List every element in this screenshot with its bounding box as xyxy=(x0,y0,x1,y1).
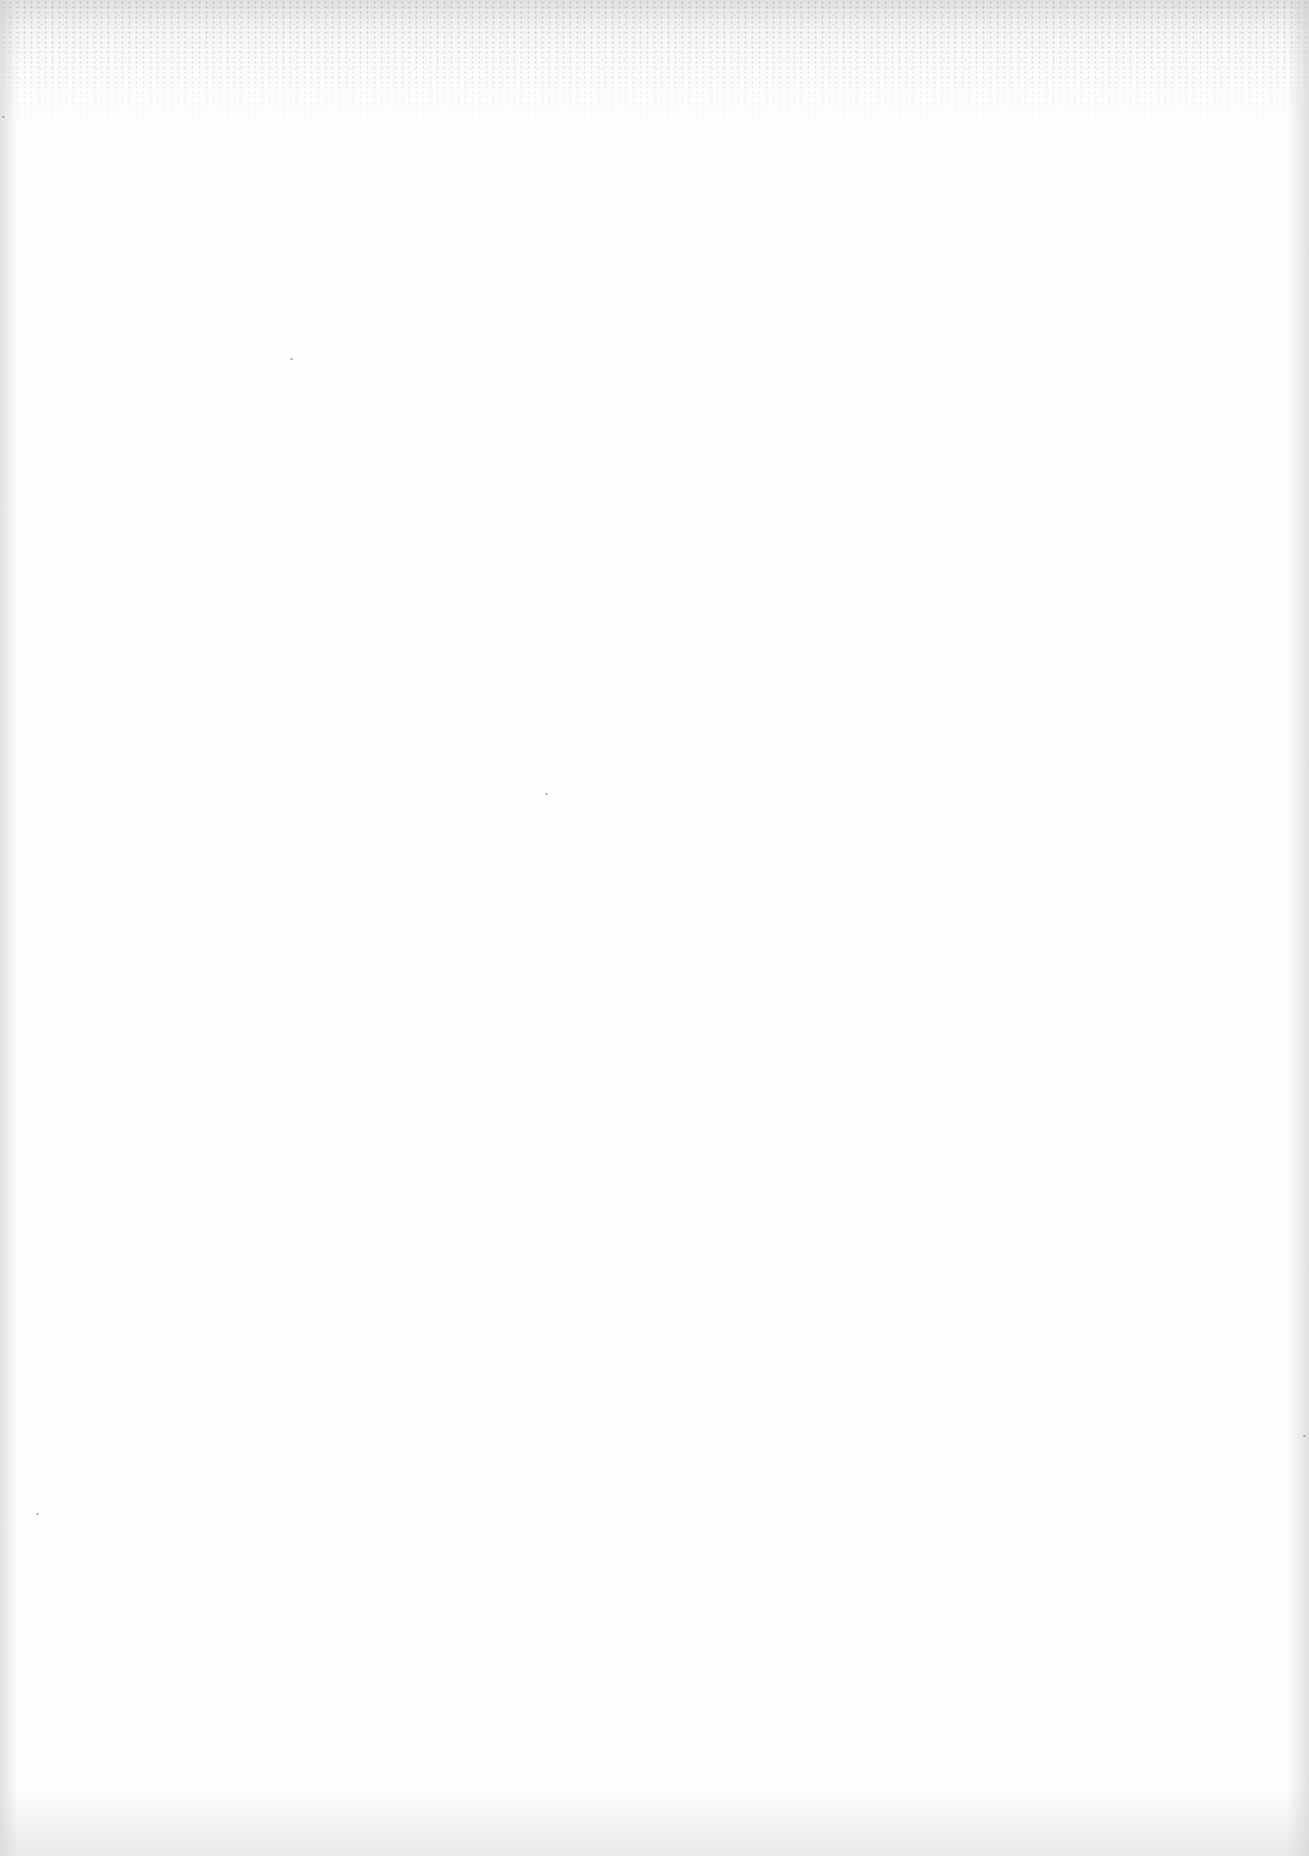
scan-speck xyxy=(1303,1435,1306,1437)
scan-noise-speckle xyxy=(0,0,1309,130)
scan-edge-left xyxy=(0,0,18,1856)
scan-speck xyxy=(36,1513,39,1515)
blank-scanned-page xyxy=(0,0,1309,1856)
scan-speck xyxy=(545,793,548,795)
scan-speck xyxy=(2,116,5,118)
scan-edge-bottom xyxy=(0,1786,1309,1856)
scan-speck xyxy=(290,358,293,360)
scan-edge-right xyxy=(1287,0,1309,1856)
